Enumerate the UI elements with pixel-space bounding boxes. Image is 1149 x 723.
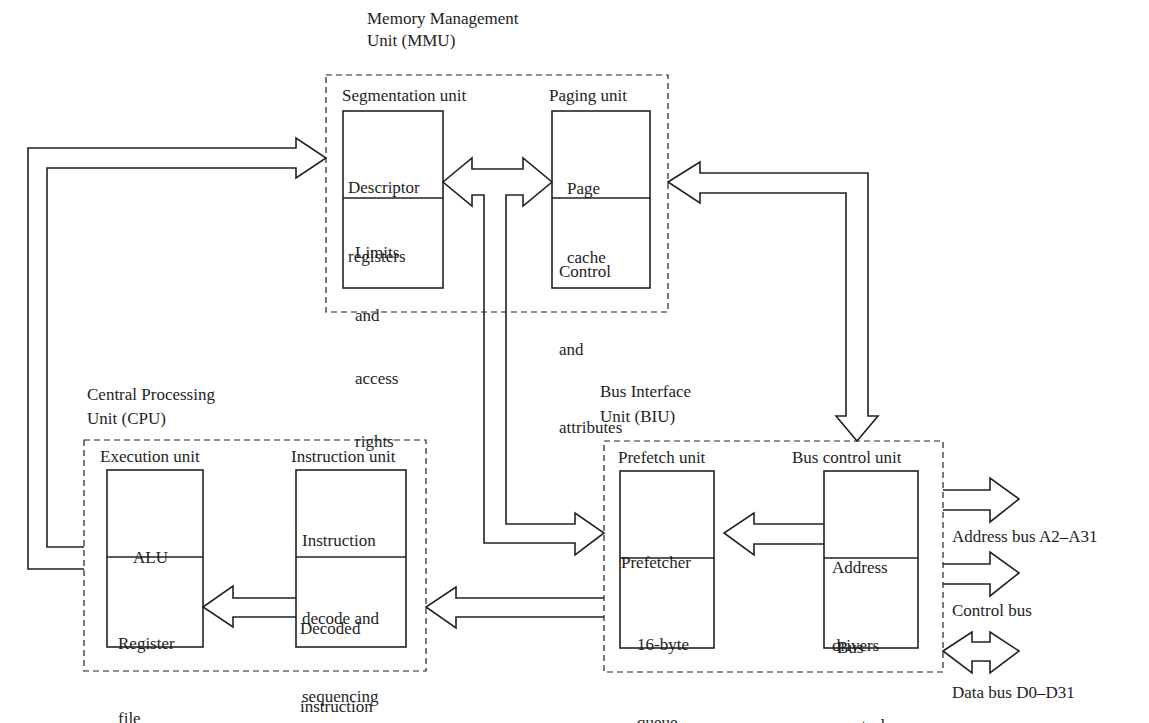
biu-title-line2: Unit (BIU) (600, 406, 675, 428)
execution-heading: Execution unit (100, 446, 200, 467)
address-bus-label: Address bus A2–A31 (952, 526, 1097, 547)
segmentation-heading: Segmentation unit (342, 85, 466, 106)
cpu-title-line1: Central Processing (87, 384, 215, 406)
mmu-title-line2: Unit (MMU) (367, 30, 455, 52)
prefetch-heading: Prefetch unit (618, 447, 705, 468)
address-to-prefetcher-arrow (724, 513, 824, 555)
biu-to-cpu-arrow (426, 587, 604, 628)
decoded-queue-label: Decoded instruction queue (300, 564, 373, 723)
data-bus-arrow (943, 632, 1019, 673)
bus-control-heading: Bus control unit (792, 447, 902, 468)
address-bus-arrow (943, 478, 1019, 522)
biu-paging-arrow (668, 162, 878, 441)
limits-access-rights-label: Limits and access rights (355, 200, 399, 473)
byte-queue-label: 16-byte queue (637, 580, 689, 723)
cpu-title-line2: Unit (CPU) (87, 408, 166, 430)
data-bus-label: Data bus D0–D31 (952, 682, 1075, 703)
paging-heading: Paging unit (549, 85, 627, 106)
cpu-to-mmu-arrow (28, 138, 326, 569)
alu-label: ALU (133, 500, 168, 592)
register-file-label: Register file (118, 581, 175, 723)
control-attributes-label: Control and attributes (559, 207, 622, 467)
control-bus-arrow (943, 552, 1019, 596)
bus-control-label: Bus control (827, 583, 885, 723)
biu-title-line1: Bus Interface (600, 381, 691, 403)
queue-to-register-arrow (203, 586, 296, 627)
cut-off-caption (0, 0, 1149, 8)
mmu-title-line1: Memory Management (367, 8, 519, 30)
instruction-heading: Instruction unit (291, 446, 395, 467)
control-bus-label: Control bus (952, 600, 1032, 621)
